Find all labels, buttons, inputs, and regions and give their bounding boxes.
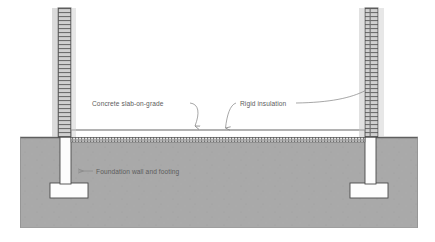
left-foundation-wall-below-grade: [60, 137, 71, 184]
leader-concrete-slab: [190, 103, 198, 126]
leader-rigid-insulation-right: [296, 91, 366, 104]
label-rigid-insulation: Rigid insulation: [240, 100, 287, 108]
right-footing: [350, 183, 388, 198]
diagram-canvas: Concrete slab-on-grade Rigid insulation …: [0, 0, 435, 242]
foundation-section-diagram: Concrete slab-on-grade Rigid insulation …: [0, 0, 435, 242]
left-footing: [50, 183, 88, 198]
leader-rigid-insulation-left: [226, 103, 237, 128]
ground-soil-fill: [20, 137, 418, 228]
label-foundation-wall-and-footing: Foundation wall and footing: [96, 168, 180, 176]
left-foundation-wall-above-grade: [52, 8, 76, 137]
rigid-insulation-layer: [71, 137, 365, 142]
right-foundation-wall-above-grade: [359, 8, 384, 137]
right-foundation-wall-below-grade: [365, 137, 376, 184]
label-concrete-slab-on-grade: Concrete slab-on-grade: [92, 100, 164, 108]
concrete-slab-on-grade: [71, 130, 365, 137]
